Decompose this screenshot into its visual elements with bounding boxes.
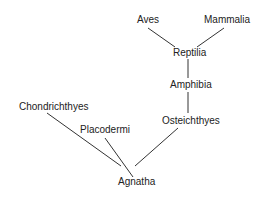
edge-osteichthyes-agnatha [135,128,178,166]
node-mammalia: Mammalia [204,14,250,26]
edge-mammalia-reptilia [197,28,224,47]
edge-aves-reptilia [148,28,175,47]
edge-chondrichthyes-agnatha [47,113,121,166]
node-osteichthyes: Osteichthyes [162,115,220,127]
node-amphibia: Amphibia [170,79,212,91]
node-chondrichthyes: Chondrichthyes [19,101,88,113]
node-reptilia: Reptilia [173,47,206,59]
node-aves: Aves [137,14,159,26]
node-placodermi: Placodermi [80,124,130,136]
node-agnatha: Agnatha [118,176,155,188]
